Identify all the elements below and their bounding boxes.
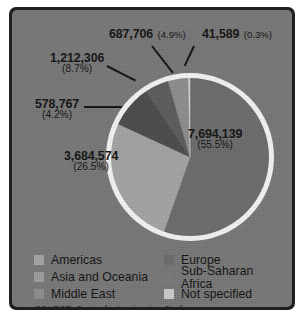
callout-sub-saharan-africa: 687,706 (4.9%) [109,25,186,42]
callout-percent: (55.5%) [188,140,242,151]
legend-swatch-icon [34,289,44,299]
callout-percent: (8.7%) [50,64,104,75]
legend-item-asia-and-oceania[interactable]: Asia and Oceania [34,271,152,283]
legend-swatch-icon [34,255,44,265]
legend-swatch-icon [34,272,44,282]
legend-swatch-icon [164,255,174,265]
legend-item-not-specified[interactable]: Not specified [164,288,282,300]
callout-value: 687,706 [109,27,153,41]
callout-middle-east: 578,767 (4.2%) [35,98,79,121]
callout-percent: (4.9%) [158,29,186,40]
legend-label: Sub-Saharan Africa [181,265,282,289]
chart-legend: Americas Europe Asia and Oceania Sub-Sah… [34,252,284,303]
callout-percent: (26.5%) [64,162,118,173]
legend-item-americas[interactable]: Americas [34,254,152,266]
chart-figure: 687,706 (4.9%) 41,589 (0.3%) 1,212,306 (… [0,0,304,317]
callout-not-specified: 41,589 (0.3%) [202,25,272,42]
legend-swatch-icon [164,273,174,283]
callout-americas: 3,684,574 (26.5%) [64,150,118,173]
source-note: SOURCE: Center for Immigration Studies [35,304,193,307]
callout-percent: (4.2%) [35,110,79,121]
legend-item-sub-saharan-africa[interactable]: Sub-Saharan Africa [164,265,282,289]
callout-europe: 7,694,139 (55.5%) [188,128,242,151]
cropped-title-sliver [0,0,304,6]
legend-item-middle-east[interactable]: Middle East [34,288,152,300]
legend-label: Asia and Oceania [51,271,148,283]
callout-value: 41,589 [202,27,239,41]
legend-label: Not specified [181,288,252,300]
legend-swatch-icon [164,289,174,299]
legend-label: Middle East [51,288,115,300]
callout-asia-and-oceania: 1,212,306 (8.7%) [50,52,104,75]
chart-frame-border: 687,706 (4.9%) 41,589 (0.3%) 1,212,306 (… [9,7,295,310]
chart-panel: 687,706 (4.9%) 41,589 (0.3%) 1,212,306 (… [12,10,292,307]
callout-percent: (0.3%) [244,29,272,40]
leader-line-middleeast [84,106,122,108]
legend-label: Americas [51,254,102,266]
